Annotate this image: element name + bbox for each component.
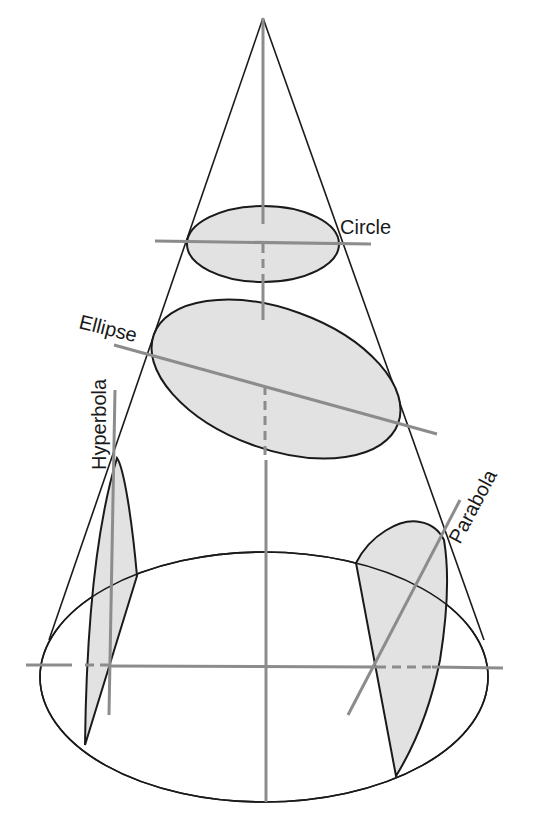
base-axis-right (432, 667, 503, 668)
parabola-section (356, 521, 447, 776)
ellipse-section (130, 269, 422, 489)
parabola-label: Parabola (444, 465, 501, 547)
ellipse-label: Ellipse (77, 311, 139, 347)
base-axis-center (110, 666, 377, 667)
circle-label: Circle (340, 216, 391, 238)
hyperbola-label: Hyperbola (88, 378, 110, 470)
conic-sections-diagram: Circle Ellipse Hyperbola Parabola (0, 0, 535, 831)
